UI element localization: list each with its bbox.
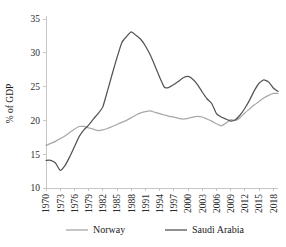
x-tick-label: 1991 <box>141 194 151 213</box>
x-tick-label: 2018 <box>269 194 279 213</box>
x-tick-label: 1982 <box>98 194 108 213</box>
x-tick-label: 1976 <box>70 194 80 213</box>
y-axis-title: % of GDP <box>5 84 15 124</box>
y-axis: 101520253035 <box>31 14 47 193</box>
chart-legend: NorwaySaudi Arabia <box>66 224 244 235</box>
legend-label-norway: Norway <box>93 224 125 235</box>
x-tick-label: 1979 <box>84 194 94 213</box>
y-axis-title-text: % of GDP <box>5 84 15 124</box>
y-tick-label: 35 <box>31 14 41 24</box>
y-tick-label: 10 <box>31 183 41 193</box>
x-tick-label: 1970 <box>41 194 51 213</box>
x-tick-label: 2003 <box>198 194 208 213</box>
series-lines <box>46 32 278 171</box>
x-tick-label: 2015 <box>254 194 264 213</box>
line-chart: 101520253035 197019731976197919821985198… <box>0 0 286 247</box>
legend-label-saudi-arabia: Saudi Arabia <box>192 224 244 235</box>
chart-figure: 101520253035 197019731976197919821985198… <box>0 0 286 247</box>
y-tick-label: 30 <box>31 48 41 58</box>
x-tick-label: 2009 <box>226 194 236 213</box>
x-tick-label: 1985 <box>112 194 122 213</box>
x-tick-label: 1973 <box>56 194 66 213</box>
x-tick-label: 2006 <box>212 194 222 213</box>
x-tick-label: 2012 <box>240 194 250 213</box>
x-tick-label: 2000 <box>183 194 193 213</box>
series-line-norway <box>46 93 278 145</box>
y-tick-label: 15 <box>31 150 41 160</box>
y-tick-label: 25 <box>31 82 41 92</box>
y-tick-label: 20 <box>31 116 41 126</box>
series-line-saudi-arabia <box>46 32 278 171</box>
x-tick-label: 1994 <box>155 194 165 213</box>
x-tick-label: 1997 <box>169 194 179 213</box>
x-axis: 1970197319761979198219851988199119941997… <box>41 188 278 213</box>
x-tick-label: 1988 <box>127 194 137 213</box>
